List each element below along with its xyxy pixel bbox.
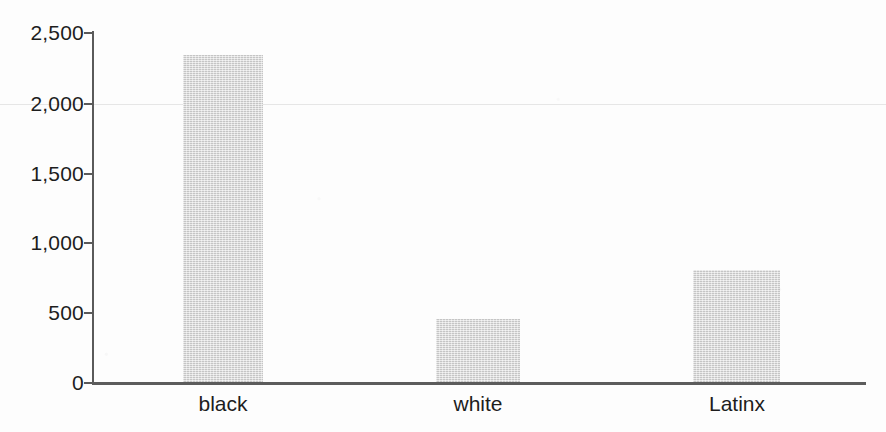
x-axis-line bbox=[92, 382, 866, 385]
bar-latinx bbox=[693, 270, 780, 383]
scan-artifact-line bbox=[0, 104, 886, 105]
y-tick-mark bbox=[84, 312, 93, 314]
y-tick-mark bbox=[84, 242, 93, 244]
x-tick-label-latinx: Latinx bbox=[709, 392, 765, 416]
x-tick-label-white: white bbox=[453, 392, 502, 416]
y-tick-mark bbox=[84, 173, 93, 175]
y-tick-mark bbox=[84, 103, 93, 105]
y-tick-label-0: 0 bbox=[6, 371, 84, 395]
y-tick-mark bbox=[84, 32, 93, 34]
bar-white bbox=[436, 319, 520, 383]
y-tick-label-1000: 1,000 bbox=[6, 231, 84, 255]
y-tick-label-2000: 2,000 bbox=[6, 92, 84, 116]
bar-black bbox=[183, 55, 263, 383]
chart-canvas: 2,500 2,000 1,500 1,000 500 0 black whit… bbox=[0, 0, 886, 432]
y-axis-line bbox=[92, 31, 94, 384]
x-tick-label-black: black bbox=[198, 392, 247, 416]
y-tick-label-1500: 1,500 bbox=[6, 162, 84, 186]
y-tick-label-2500: 2,500 bbox=[6, 21, 84, 45]
y-tick-label-500: 500 bbox=[6, 301, 84, 325]
